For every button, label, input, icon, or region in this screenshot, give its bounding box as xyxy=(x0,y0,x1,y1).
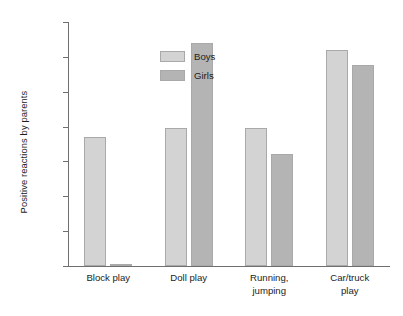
y-tick-mark xyxy=(63,266,68,267)
legend-item-girls: Girls xyxy=(160,68,256,83)
y-tick-mark xyxy=(63,196,68,197)
y-axis-title: Positive reactions by parents xyxy=(16,26,32,278)
bar-girls-3 xyxy=(352,65,374,266)
category-label-line2: play xyxy=(302,285,398,298)
bar-boys-3 xyxy=(326,50,348,266)
legend-label: Girls xyxy=(194,70,214,81)
y-axis-line xyxy=(68,22,69,266)
chart-legend: BoysGirls xyxy=(160,49,256,87)
category-label-line1: Car/truck xyxy=(302,272,398,285)
bar-boys-2 xyxy=(245,128,267,266)
y-tick-mark xyxy=(63,161,68,162)
legend-label: Boys xyxy=(194,51,215,62)
legend-swatch-boys xyxy=(160,51,185,62)
bar-girls-2 xyxy=(271,154,293,266)
category-label-3: Car/truckplay xyxy=(302,272,398,297)
y-tick-mark xyxy=(63,22,68,23)
y-tick-mark xyxy=(63,92,68,93)
legend-item-boys: Boys xyxy=(160,49,256,64)
y-tick-mark xyxy=(63,231,68,232)
y-tick: .00 xyxy=(68,266,390,267)
bar-chart-figure: Positive reactions by parents .70.60.50.… xyxy=(0,0,403,316)
y-tick: .70 xyxy=(68,22,390,23)
bar-boys-1 xyxy=(165,128,187,266)
y-tick-mark xyxy=(63,127,68,128)
bar-boys-0 xyxy=(84,137,106,266)
y-tick-mark xyxy=(63,57,68,58)
plot-area: .70.60.50.40.30.20.10.00 Block playDoll … xyxy=(68,22,390,266)
legend-swatch-girls xyxy=(160,70,185,81)
bar-girls-0 xyxy=(110,264,132,266)
